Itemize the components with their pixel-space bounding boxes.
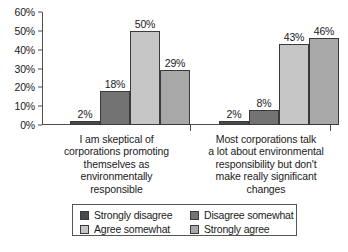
bar <box>279 44 309 125</box>
y-axis-tick-label: 20% <box>15 82 35 93</box>
bar <box>219 121 249 125</box>
x-axis-category-line: I am skeptical of <box>43 133 190 145</box>
x-axis-group-divider-tick <box>190 125 191 131</box>
x-axis-category-line: responsible <box>43 183 190 195</box>
bar-value-label: 2% <box>214 109 254 120</box>
bar <box>160 70 190 125</box>
bar-value-label: 46% <box>304 26 344 37</box>
bar <box>70 121 100 125</box>
x-axis-category-line: environmentally <box>43 170 190 182</box>
bar <box>309 38 339 125</box>
legend-label: Agree somewhat <box>94 224 170 235</box>
bar-value-label: 18% <box>95 79 135 90</box>
legend-label: Strongly disagree <box>94 210 172 221</box>
y-axis-tick-label: 30% <box>15 63 35 74</box>
legend-item-disagree-somewhat: Disagree somewhat <box>190 209 293 222</box>
legend-item-strongly-agree: Strongly agree <box>190 223 270 236</box>
bar <box>130 31 160 125</box>
x-axis-category-line: responsibility but don't <box>192 158 340 170</box>
y-axis-tick-label: 40% <box>15 44 35 55</box>
x-axis-category-label-1: Most corporations talka lot about enviro… <box>192 133 340 195</box>
legend-label: Disagree somewhat <box>204 210 293 221</box>
y-axis-tick-label: 50% <box>15 26 35 37</box>
y-axis: 0%10%20%30%40%50%60% <box>0 0 42 130</box>
legend-swatch-icon <box>190 211 199 220</box>
legend-swatch-icon <box>80 225 89 234</box>
x-axis-category-line: changes <box>192 183 340 195</box>
bar-chart: 0%10%20%30%40%50%60% 2%18%50%29%2%8%43%4… <box>0 0 348 252</box>
bar-value-label: 50% <box>125 19 165 30</box>
bar <box>249 110 279 125</box>
y-axis-tick-label: 10% <box>15 101 35 112</box>
chart-legend: Strongly disagree Disagree somewhat Agre… <box>72 204 297 236</box>
legend-item-strongly-disagree: Strongly disagree <box>80 209 172 222</box>
x-axis-category-line: a lot about environmental <box>192 145 340 157</box>
x-axis-category-label-0: I am skeptical ofcorporations promotingt… <box>43 133 190 195</box>
y-axis-tick-label: 0% <box>20 120 35 131</box>
bar <box>100 91 130 125</box>
legend-item-agree-somewhat: Agree somewhat <box>80 223 170 236</box>
x-axis-category-line: Most corporations talk <box>192 133 340 145</box>
bar-value-label: 8% <box>244 98 284 109</box>
y-axis-tick-label: 60% <box>15 7 35 18</box>
legend-swatch-icon <box>80 211 89 220</box>
x-axis-category-line: make really significant <box>192 170 340 182</box>
x-axis-category-line: corporations promoting <box>43 145 190 157</box>
legend-label: Strongly agree <box>204 224 270 235</box>
x-axis-end-tick <box>330 125 331 131</box>
bar-value-label: 29% <box>155 58 195 69</box>
bar-value-label: 2% <box>65 109 105 120</box>
x-axis-category-line: themselves as <box>43 158 190 170</box>
plot-area: 2%18%50%29%2%8%43%46% <box>43 12 331 125</box>
legend-swatch-icon <box>190 225 199 234</box>
